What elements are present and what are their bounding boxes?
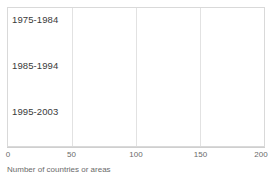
x-axis-line [7,147,265,148]
category-label-1995-2003: 1995-2003 [12,106,58,117]
x-tick-label-0: 0 [6,150,10,159]
x-axis-ticks: 0 50 100 150 200 [0,150,275,164]
x-tick-label-50: 50 [67,150,76,159]
category-label-1975-1984: 1975-1984 [12,14,58,25]
x-axis-label: Number of countries or areas [7,165,111,174]
x-tick-label-100: 100 [129,150,142,159]
x-tick-label-150: 150 [194,150,207,159]
x-tick-label-200: 200 [254,150,267,159]
bars-layer: 1975-1984 1985-1994 1995-2003 [7,7,265,147]
bar-chart: 1975-1984 1985-1994 1995-2003 0 50 100 [0,0,275,179]
category-label-1985-1994: 1985-1994 [12,60,58,71]
